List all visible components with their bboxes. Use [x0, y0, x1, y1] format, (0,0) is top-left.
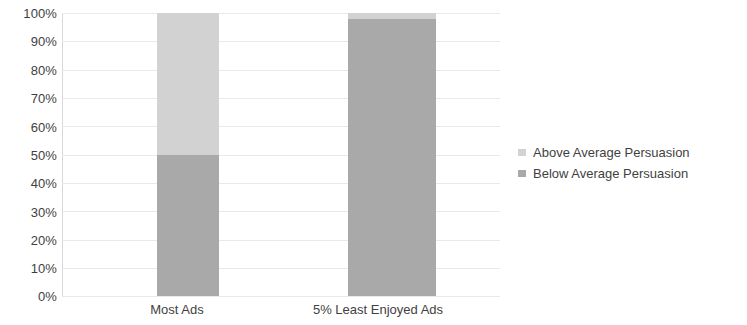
- category-label-most-ads: Most Ads: [127, 303, 227, 317]
- y-tick-label-30: 30%: [1, 206, 57, 219]
- stacked-bar-chart: 100% 90% 80% 70% 60% 50% 40% 30% 20% 10%…: [0, 0, 747, 325]
- bar-segment-above-average[interactable]: [157, 13, 219, 155]
- bar-most-ads[interactable]: [157, 13, 219, 296]
- legend-swatch-icon: [518, 170, 526, 177]
- y-tick-label-100: 100%: [1, 7, 57, 20]
- y-tick-label-0: 0%: [1, 290, 57, 303]
- y-tick-label-10: 10%: [1, 262, 57, 275]
- legend-label-below-average: Below Average Persuasion: [533, 167, 688, 181]
- y-tick-label-80: 80%: [1, 64, 57, 77]
- legend-item-above-average[interactable]: Above Average Persuasion: [518, 142, 690, 163]
- y-tick-label-60: 60%: [1, 121, 57, 134]
- bar-segment-below-average[interactable]: [348, 19, 436, 296]
- legend-item-below-average[interactable]: Below Average Persuasion: [518, 163, 690, 184]
- y-tick-label-50: 50%: [1, 149, 57, 162]
- bar-least-enjoyed-ads[interactable]: [348, 13, 436, 296]
- y-tick-label-70: 70%: [1, 92, 57, 105]
- y-tick-label-20: 20%: [1, 234, 57, 247]
- y-axis: 100% 90% 80% 70% 60% 50% 40% 30% 20% 10%…: [0, 0, 57, 325]
- y-tick-label-90: 90%: [1, 35, 57, 48]
- category-label-least-enjoyed-ads: 5% Least Enjoyed Ads: [278, 303, 478, 317]
- y-tick-label-40: 40%: [1, 177, 57, 190]
- plot-area: [62, 13, 500, 296]
- legend-label-above-average: Above Average Persuasion: [533, 146, 690, 160]
- legend-swatch-icon: [518, 149, 526, 156]
- gridline-0: [62, 296, 500, 297]
- legend: Above Average Persuasion Below Average P…: [518, 142, 690, 184]
- bar-segment-below-average[interactable]: [157, 155, 219, 297]
